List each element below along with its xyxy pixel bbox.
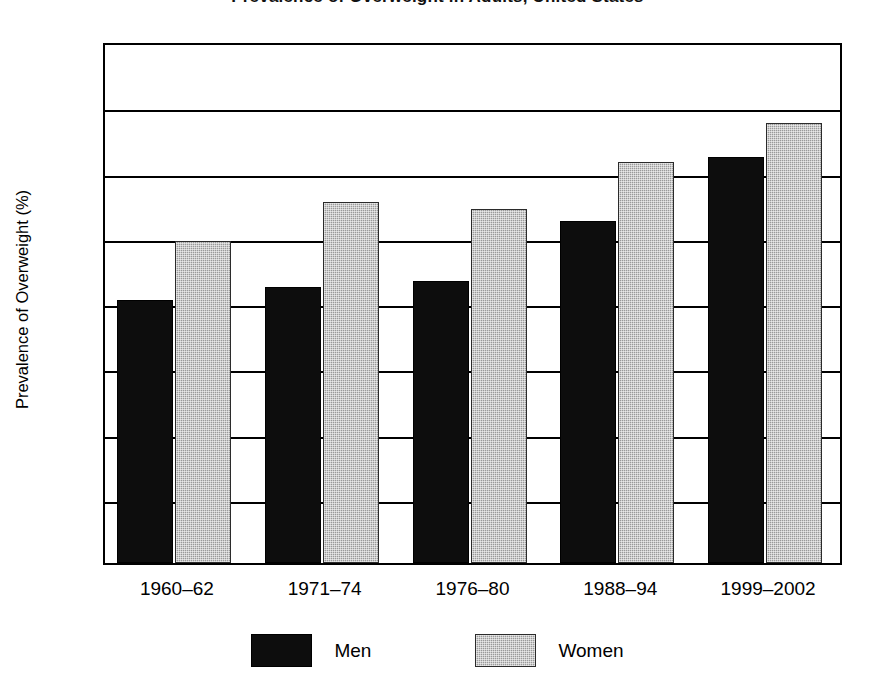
- x-category-label-1971-74: 1971–74: [251, 578, 399, 600]
- bar-men-1988-94: [560, 221, 616, 563]
- y-axis-title: Prevalence of Overweight (%): [13, 40, 32, 560]
- bar-men-1999-2002: [708, 157, 764, 564]
- bar-women-1971-74: [323, 202, 379, 563]
- legend-label-women: Women: [558, 640, 623, 662]
- x-category-label-1988-94: 1988–94: [546, 578, 694, 600]
- plot-area: [103, 43, 842, 565]
- bar-chart-figure: Prevalence of Overweight in Adults, Unit…: [0, 0, 875, 687]
- black-solid-swatch: [251, 634, 312, 667]
- bar-men-1971-74: [265, 287, 321, 563]
- bar-men-1960-62: [117, 300, 173, 563]
- gray-hatched-swatch: [475, 634, 536, 667]
- gridline-70: [105, 110, 840, 112]
- bar-women-1988-94: [618, 162, 674, 563]
- legend-item-women: Women: [475, 634, 623, 667]
- legend-label-men: Men: [334, 640, 371, 662]
- bar-women-1999-2002: [766, 123, 822, 563]
- x-category-label-1960-62: 1960–62: [103, 578, 251, 600]
- x-category-label-1976-80: 1976–80: [399, 578, 547, 600]
- bar-men-1976-80: [413, 281, 469, 563]
- chart-title: Prevalence of Overweight in Adults, Unit…: [0, 0, 875, 7]
- legend-item-men: Men: [251, 634, 371, 667]
- bar-women-1960-62: [175, 241, 231, 563]
- chart-legend: MenWomen: [0, 634, 875, 667]
- x-category-label-1999-2002: 1999–2002: [694, 578, 842, 600]
- bar-women-1976-80: [471, 209, 527, 563]
